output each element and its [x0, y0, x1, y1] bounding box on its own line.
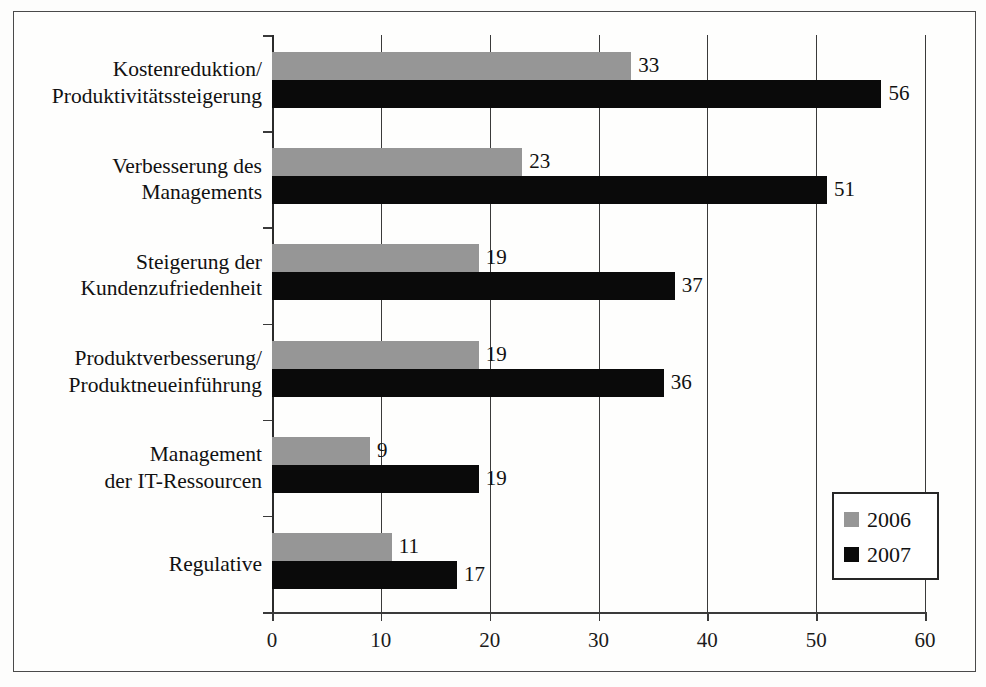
category-tick-0	[263, 35, 272, 37]
category-label-2: Steigerung derKundenzufriedenheit	[0, 249, 262, 302]
legend-item-2006: 2006	[844, 502, 937, 537]
gridline-30	[599, 35, 600, 612]
bar-value-2006-0: 33	[638, 53, 659, 78]
x-tick-label-60: 60	[915, 628, 936, 653]
x-tick-0	[272, 612, 274, 621]
category-label-line1: Verbesserung des	[0, 153, 262, 180]
bar-2007-5	[272, 561, 457, 589]
bar-value-2006-2: 19	[486, 245, 507, 270]
category-label-line1: Management	[0, 441, 262, 468]
category-label-line1: Steigerung der	[0, 249, 262, 276]
bar-value-2007-0: 56	[888, 81, 909, 106]
x-tick-60	[925, 612, 927, 621]
category-label-line2: der IT-Ressourcen	[0, 468, 262, 495]
category-label-4: Managementder IT-Ressourcen	[0, 441, 262, 494]
bar-2006-2	[272, 244, 479, 272]
bar-2007-2	[272, 272, 675, 300]
x-tick-label-50: 50	[806, 628, 827, 653]
legend-item-2007: 2007	[844, 537, 937, 572]
gridline-0	[272, 35, 274, 612]
bar-value-2007-2: 37	[682, 273, 703, 298]
bar-value-2006-4: 9	[377, 438, 388, 463]
category-label-line2: Managements	[0, 179, 262, 206]
category-label-line2: Produktneueinführung	[0, 372, 262, 399]
x-tick-40	[707, 612, 709, 621]
bar-2007-0	[272, 80, 881, 108]
x-tick-10	[381, 612, 383, 621]
category-label-line2: Produktivitätssteigerung	[0, 83, 262, 110]
gridline-10	[381, 35, 382, 612]
bar-2006-5	[272, 533, 392, 561]
bar-value-2007-4: 19	[486, 466, 507, 491]
bar-2007-4	[272, 465, 479, 493]
gridline-40	[707, 35, 708, 612]
bar-2006-1	[272, 148, 522, 176]
bar-2006-3	[272, 341, 479, 369]
plot-area: 33562351193719369191117 Kostenreduktion/…	[272, 35, 925, 612]
category-label-1: Verbesserung desManagements	[0, 153, 262, 206]
x-tick-label-40: 40	[697, 628, 718, 653]
category-tick-6	[263, 612, 272, 614]
bar-2007-3	[272, 369, 664, 397]
gridline-50	[816, 35, 817, 612]
category-label-line2: Kundenzufriedenheit	[0, 275, 262, 302]
x-tick-label-30: 30	[588, 628, 609, 653]
bar-2007-1	[272, 176, 827, 204]
category-tick-4	[263, 420, 272, 422]
legend-label-2007: 2007	[867, 542, 911, 568]
gridline-20	[490, 35, 491, 612]
category-labels: Kostenreduktion/Produktivitätssteigerung…	[0, 35, 262, 612]
category-tick-2	[263, 227, 272, 229]
bar-value-2007-5: 17	[464, 562, 485, 587]
category-label-5: Regulative	[0, 551, 262, 578]
legend-label-2006: 2006	[867, 507, 911, 533]
bar-value-2006-3: 19	[486, 342, 507, 367]
x-tick-label-0: 0	[267, 628, 278, 653]
category-label-line1: Produktverbesserung/	[0, 345, 262, 372]
bar-value-2006-5: 11	[399, 534, 419, 559]
bar-2006-4	[272, 437, 370, 465]
bar-value-2007-1: 51	[834, 177, 855, 202]
bar-value-2006-1: 23	[529, 149, 550, 174]
x-tick-label-20: 20	[479, 628, 500, 653]
category-label-line1: Kostenreduktion/	[0, 56, 262, 83]
bar-2006-0	[272, 52, 631, 80]
category-tick-3	[263, 324, 272, 326]
x-tick-20	[490, 612, 492, 621]
category-label-3: Produktverbesserung/Produktneueinführung	[0, 345, 262, 398]
x-tick-30	[599, 612, 601, 621]
bar-value-2007-3: 36	[671, 370, 692, 395]
legend-swatch-2006	[844, 512, 859, 527]
x-tick-50	[816, 612, 818, 621]
category-tick-1	[263, 131, 272, 133]
chart-figure: 33562351193719369191117 Kostenreduktion/…	[0, 0, 986, 687]
category-tick-5	[263, 516, 272, 518]
category-label-line1: Regulative	[0, 551, 262, 578]
x-tick-label-10: 10	[370, 628, 391, 653]
category-label-0: Kostenreduktion/Produktivitätssteigerung	[0, 56, 262, 109]
chart-legend: 2006 2007	[832, 492, 939, 580]
legend-swatch-2007	[844, 547, 859, 562]
